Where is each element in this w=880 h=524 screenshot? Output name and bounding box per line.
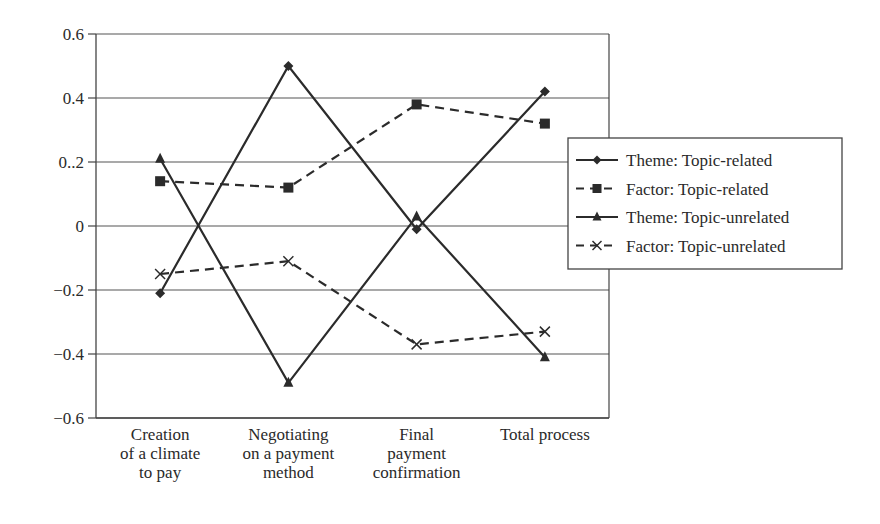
x-category-label: Creationof a climateto pay [120, 425, 200, 482]
x-category-label: Negotiatingon a paymentmethod [243, 425, 335, 482]
x-category-label-line: of a climate [120, 444, 200, 463]
data-point-triangle [155, 153, 165, 163]
data-point-square [283, 183, 293, 193]
series-group [155, 61, 550, 387]
x-category-label-line: on a payment [243, 444, 335, 463]
legend-label: Factor: Topic-related [626, 180, 769, 199]
legend-label: Theme: Topic-unrelated [626, 208, 790, 227]
legend: Theme: Topic-relatedFactor: Topic-relate… [568, 138, 842, 269]
series-theme-topic-unrelated [155, 153, 550, 387]
series-line [160, 261, 545, 344]
x-category-label: Finalpaymentconfirmation [373, 425, 461, 482]
x-category-label-line: payment [387, 444, 446, 463]
axes: 0.60.40..20−0.2−0.4−0.6Creationof a clim… [53, 25, 609, 482]
y-tick-label: −0.4 [53, 345, 84, 364]
data-point-triangle [412, 210, 422, 220]
x-category-label-line: to pay [139, 463, 182, 482]
x-category-label-line: Creation [131, 425, 190, 444]
data-point-square [412, 99, 422, 109]
y-tick-label: −0.6 [53, 409, 84, 428]
y-tick-label: −0.2 [53, 281, 84, 300]
series-factor-topic-unrelated [155, 256, 550, 349]
x-category-label-line: Negotiating [248, 425, 329, 444]
x-category-label-line: Total process [500, 425, 590, 444]
y-tick-label: 0.4 [63, 89, 85, 108]
x-category-label-line: method [263, 463, 314, 482]
data-point-square [155, 176, 165, 186]
x-category-label-line: confirmation [373, 463, 461, 482]
legend-marker-square-icon [593, 184, 602, 193]
chart: 0.60.40..20−0.2−0.4−0.6Creationof a clim… [0, 0, 880, 524]
y-tick-label: 0 [76, 217, 85, 236]
series-theme-topic-related [155, 61, 550, 298]
x-category-label: Total process [500, 425, 590, 444]
legend-label: Factor: Topic-unrelated [626, 237, 786, 256]
y-tick-label: 0.6 [63, 25, 84, 44]
x-category-label-line: Final [399, 425, 434, 444]
gridlines [96, 34, 609, 418]
legend-label: Theme: Topic-related [626, 151, 773, 170]
y-tick-label: 0..2 [59, 153, 85, 172]
data-point-square [540, 119, 550, 129]
